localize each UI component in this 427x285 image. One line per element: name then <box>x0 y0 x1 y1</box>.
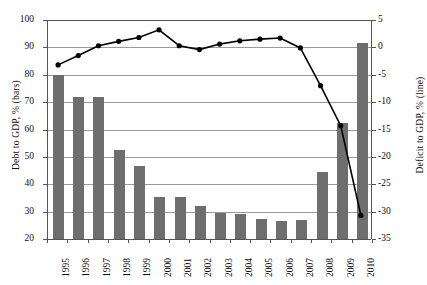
y-axis-right-tick-label: 0 <box>378 42 383 52</box>
x-axis-tick-label: 2010 <box>366 258 376 277</box>
y-axis-right-tickmark <box>372 102 376 103</box>
y-axis-left-tick-label: 50 <box>0 152 34 162</box>
x-axis-tickmark <box>47 239 48 243</box>
y-axis-right-tick-label: -35 <box>378 234 391 244</box>
x-axis-tickmark <box>230 239 231 243</box>
y-axis-left-tick-label: 80 <box>0 70 34 80</box>
y-axis-left-tick-label: 40 <box>0 179 34 189</box>
line-marker <box>96 43 101 48</box>
plot-area <box>47 20 372 239</box>
x-axis-tick-label: 2004 <box>244 258 254 277</box>
x-axis-tick-label: 2006 <box>285 258 295 277</box>
x-axis-tickmark <box>331 239 332 243</box>
x-axis-tickmark <box>291 239 292 243</box>
line-marker <box>136 35 141 40</box>
line-marker <box>56 62 61 67</box>
y-axis-left-tick-label: 60 <box>0 125 34 135</box>
x-axis-tick-label: 2003 <box>224 258 234 277</box>
y-axis-right-tick-label: -30 <box>378 207 391 217</box>
y-axis-right-tick-label: -20 <box>378 152 391 162</box>
x-axis-tick-label: 1995 <box>61 258 71 277</box>
y-axis-right-tick-label: -15 <box>378 125 391 135</box>
x-axis-tickmark <box>67 239 68 243</box>
x-axis-labels: 1995199619971998199920002001200220032004… <box>47 245 372 285</box>
x-axis-tick-label: 2008 <box>325 258 335 277</box>
y-axis-right-ticks: 50-5-10-15-20-25-30-35 <box>378 0 418 285</box>
x-axis-tickmark <box>250 239 251 243</box>
x-axis-tickmark <box>88 239 89 243</box>
y-axis-right-tick-label: 5 <box>378 15 383 25</box>
x-axis-tick-label: 2000 <box>163 258 173 277</box>
x-axis-tickmark <box>270 239 271 243</box>
y-axis-right-tick-label: -5 <box>378 70 386 80</box>
y-axis-right-tick-label: -25 <box>378 179 391 189</box>
x-axis-tick-label: 2005 <box>264 258 274 277</box>
x-axis-tick-label: 2002 <box>203 258 213 277</box>
y-axis-right-tickmark <box>372 157 376 158</box>
y-axis-left-tick-label: 90 <box>0 42 34 52</box>
line-series <box>48 20 371 239</box>
x-axis-tickmark <box>108 239 109 243</box>
x-axis-tickmark <box>189 239 190 243</box>
x-axis-tick-label: 2009 <box>346 258 356 277</box>
y-axis-right-tickmark <box>372 47 376 48</box>
x-axis-tickmark <box>352 239 353 243</box>
x-axis-tick-label: 1996 <box>81 258 91 277</box>
line-marker <box>177 43 182 48</box>
x-axis-tickmark <box>210 239 211 243</box>
x-axis-tick-label: 1997 <box>102 258 112 277</box>
line-marker <box>318 83 323 88</box>
line-marker <box>257 37 262 42</box>
y-axis-right-tickmark <box>372 184 376 185</box>
line-marker <box>217 41 222 46</box>
x-axis-tickmark <box>169 239 170 243</box>
line-marker <box>197 47 202 52</box>
x-axis-tick-label: 2001 <box>183 258 193 277</box>
x-axis-tick-label: 1999 <box>142 258 152 277</box>
line-marker <box>116 39 121 44</box>
x-axis-tickmark <box>149 239 150 243</box>
line-marker <box>237 38 242 43</box>
line-marker <box>76 53 81 58</box>
x-axis-tickmark <box>311 239 312 243</box>
line-marker <box>298 45 303 50</box>
x-axis-tick-label: 1998 <box>122 258 132 277</box>
y-axis-left-tick-label: 20 <box>0 234 34 244</box>
chart-figure: Debt to GDP, % (bars) Deficit to GDP, % … <box>0 0 427 285</box>
y-axis-left-tick-label: 100 <box>0 15 34 25</box>
line-marker <box>156 27 161 32</box>
y-axis-left-ticks: 1009080706050403020 <box>0 0 34 285</box>
x-axis-tick-label: 2007 <box>305 258 315 277</box>
x-axis-tickmark <box>372 239 373 243</box>
y-axis-right-tickmark <box>372 75 376 76</box>
y-axis-right-tickmark <box>372 212 376 213</box>
line-marker <box>338 123 343 128</box>
line-marker <box>358 213 363 218</box>
y-axis-right-tick-label: -10 <box>378 97 391 107</box>
x-axis-tickmark <box>128 239 129 243</box>
y-axis-left-tick-label: 30 <box>0 207 34 217</box>
line-marker <box>278 35 283 40</box>
y-axis-left-tick-label: 70 <box>0 97 34 107</box>
line-path <box>58 30 361 216</box>
y-axis-right-tickmark <box>372 20 376 21</box>
y-axis-right-tickmark <box>372 130 376 131</box>
